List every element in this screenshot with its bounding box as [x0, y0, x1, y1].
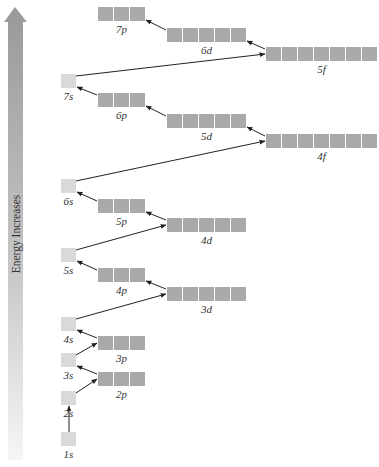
orbital-label: 7p [98, 23, 145, 35]
filling-arrow [76, 343, 97, 355]
orbital-box [330, 47, 345, 61]
orbital-label: 5p [98, 215, 145, 227]
orbital-5f [266, 47, 377, 61]
orbital-label: 3d [167, 303, 246, 315]
orbital-label: 2p [98, 388, 145, 400]
orbital-box [346, 134, 361, 148]
orbital-label: 5f [266, 63, 377, 75]
orbital-box [61, 317, 76, 331]
orbital-box [61, 248, 76, 262]
filling-arrow [76, 294, 166, 319]
orbital-box [282, 47, 297, 61]
orbital-label: 3p [98, 352, 145, 364]
orbital-box [199, 28, 214, 42]
orbital-box [114, 372, 129, 386]
orbital-label: 3s [61, 369, 76, 381]
orbital-box [199, 287, 214, 301]
orbital-2s [61, 391, 76, 405]
orbital-box [183, 28, 198, 42]
filling-arrow [247, 41, 265, 49]
filling-arrow [146, 212, 166, 220]
orbital-box [298, 47, 313, 61]
orbital-box [130, 268, 145, 282]
orbital-box [98, 7, 113, 21]
orbital-label: 7s [61, 90, 76, 102]
orbital-box [130, 199, 145, 213]
orbital-5p [98, 199, 145, 213]
orbital-7s [61, 74, 76, 88]
orbital-box [167, 218, 182, 232]
orbital-box [114, 336, 129, 350]
orbital-box [314, 134, 329, 148]
orbital-label: 1s [61, 448, 76, 460]
orbital-6p [98, 93, 145, 107]
orbital-box [114, 7, 129, 21]
filling-arrow [76, 225, 166, 250]
orbital-5s [61, 248, 76, 262]
orbital-7p [98, 7, 145, 21]
filling-arrow [146, 106, 166, 116]
filling-arrow [76, 141, 265, 181]
orbital-box [298, 134, 313, 148]
orbital-box [98, 93, 113, 107]
orbital-box [130, 336, 145, 350]
orbital-box [231, 218, 246, 232]
orbital-box [215, 287, 230, 301]
orbital-5d [167, 114, 246, 128]
orbital-1s [61, 432, 76, 446]
orbital-3p [98, 336, 145, 350]
orbital-box [98, 199, 113, 213]
filling-arrow [146, 281, 166, 289]
orbital-box [314, 47, 329, 61]
orbital-box [130, 93, 145, 107]
orbital-box [346, 47, 361, 61]
filling-arrow [77, 261, 97, 270]
orbital-label: 6p [98, 109, 145, 121]
orbital-box [61, 391, 76, 405]
orbital-box [199, 218, 214, 232]
orbital-box [330, 134, 345, 148]
orbital-box [183, 218, 198, 232]
filling-arrow [146, 20, 166, 30]
orbital-box [282, 134, 297, 148]
orbital-box [61, 353, 76, 367]
orbital-4d [167, 218, 246, 232]
orbital-4f [266, 134, 377, 148]
orbital-box [167, 287, 182, 301]
orbital-box [167, 28, 182, 42]
orbital-box [130, 7, 145, 21]
orbital-box [114, 268, 129, 282]
orbital-box [61, 179, 76, 193]
filling-arrow [76, 379, 97, 393]
orbital-box [266, 134, 281, 148]
orbital-3d [167, 287, 246, 301]
orbital-label: 4d [167, 234, 246, 246]
orbital-4s [61, 317, 76, 331]
orbital-label: 4p [98, 284, 145, 296]
filling-arrow [77, 330, 97, 338]
orbital-box [266, 47, 281, 61]
orbital-2p [98, 372, 145, 386]
orbital-label: 4s [61, 333, 76, 345]
orbital-box [98, 372, 113, 386]
orbital-box [114, 199, 129, 213]
energy-axis-label: Energy Increases [8, 188, 24, 280]
orbital-box [231, 114, 246, 128]
orbital-box [183, 114, 198, 128]
orbital-3s [61, 353, 76, 367]
orbital-4p [98, 268, 145, 282]
orbital-label: 4f [266, 150, 377, 162]
orbital-box [362, 134, 377, 148]
orbital-box [61, 432, 76, 446]
orbital-label: 5d [167, 130, 246, 142]
orbital-box [183, 287, 198, 301]
filling-arrow [77, 192, 97, 201]
orbital-box [61, 74, 76, 88]
filling-arrow [247, 127, 265, 136]
orbital-6s [61, 179, 76, 193]
orbital-box [215, 28, 230, 42]
orbital-box [362, 47, 377, 61]
orbital-label: 5s [61, 264, 76, 276]
orbital-box [130, 372, 145, 386]
orbital-label: 6s [61, 195, 76, 207]
